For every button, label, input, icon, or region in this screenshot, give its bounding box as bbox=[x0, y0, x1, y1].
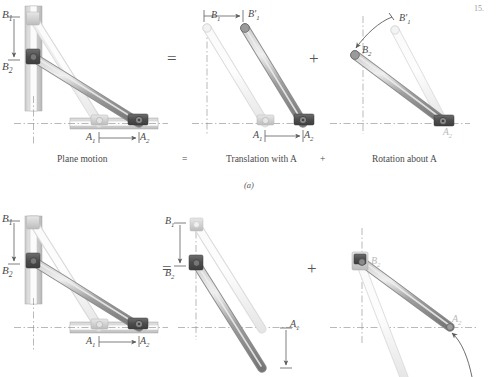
dim-b1-b2-translation-b bbox=[174, 223, 186, 266]
figure-canvas: B1 B2 A1 A2 B1 B′1 A1 A2 B′1 B2 A2 B1 B2… bbox=[0, 0, 499, 377]
dim-b1-b2-row-b bbox=[8, 221, 20, 264]
rotation-arrow-a bbox=[356, 13, 394, 48]
dim-a1-a2-translation bbox=[265, 130, 303, 142]
operator-plus-row-a: + bbox=[309, 49, 319, 69]
label-b2-panel4: B2 bbox=[2, 264, 12, 279]
rod-translation-moved bbox=[241, 24, 314, 125]
rod-position-2-b bbox=[26, 253, 148, 329]
rod-translation-original bbox=[203, 24, 274, 125]
label-b2-panel3: B2 bbox=[362, 44, 372, 57]
caption-equals: = bbox=[182, 154, 187, 164]
dim-a1-translation-b bbox=[280, 328, 292, 368]
caption-plane-motion: Plane motion bbox=[57, 154, 107, 164]
panel-rotation-b bbox=[330, 228, 478, 377]
sub-caption-a: (a) bbox=[244, 180, 254, 190]
caption-plus: + bbox=[320, 154, 325, 164]
dim-a1-a2 bbox=[99, 132, 139, 143]
rod-rotation-after bbox=[351, 51, 454, 126]
label-a2-panel2: A2 bbox=[304, 129, 314, 142]
label-b1-panel2: B1 bbox=[211, 9, 221, 22]
label-a1-panel5: A1 bbox=[290, 318, 300, 331]
dim-b1-b2 bbox=[8, 17, 20, 60]
operator-equals-row-a: = bbox=[167, 49, 177, 69]
label-b1prime-panel3: B′1 bbox=[399, 12, 411, 25]
label-a1-panel1: A1 bbox=[86, 131, 96, 144]
dim-a1-a2-row-b bbox=[99, 336, 139, 347]
label-b2-panel6: B2 bbox=[371, 255, 381, 268]
label-a2-panel3: A2 bbox=[443, 127, 452, 139]
label-b1prime-panel2: B′1 bbox=[248, 8, 260, 21]
label-b2-panel1: B2 bbox=[2, 60, 12, 75]
label-a2-panel4: A2 bbox=[140, 335, 150, 348]
panel-translation-b bbox=[174, 218, 300, 368]
operator-equals-row-b: = bbox=[162, 259, 172, 279]
label-a1-panel4: A1 bbox=[86, 335, 96, 348]
caption-rotation-about-a: Rotation about A bbox=[372, 154, 437, 164]
panel-plane-motion-a bbox=[8, 6, 168, 146]
dim-b1-b1prime bbox=[204, 10, 243, 22]
rotation-arrow-b bbox=[452, 333, 472, 377]
label-a2-panel6: A2 bbox=[452, 313, 462, 326]
label-b1-panel4: B1 bbox=[2, 212, 12, 227]
panel-plane-motion-b bbox=[8, 216, 168, 350]
label-b1-panel5: B1 bbox=[165, 215, 175, 228]
label-a1-panel2: A1 bbox=[253, 129, 263, 142]
rod-position-2 bbox=[26, 49, 148, 125]
label-b1-panel1: B1 bbox=[2, 8, 12, 23]
figure-corner-number: 15. bbox=[474, 4, 484, 13]
operator-plus-row-b: + bbox=[307, 259, 317, 279]
panel-rotation-a bbox=[330, 13, 470, 134]
label-a2-panel1: A2 bbox=[140, 131, 150, 144]
caption-translation-with-a: Translation with A bbox=[226, 154, 297, 164]
panel-translation-a bbox=[192, 10, 314, 142]
